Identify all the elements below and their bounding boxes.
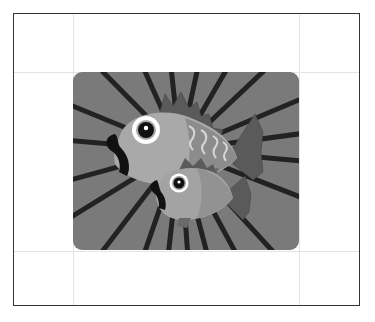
small-fish-eye-highlight	[177, 180, 180, 183]
large-fish-eye-highlight	[144, 126, 148, 130]
canvas: Two cartoon fish on a radial sunburst ba…	[0, 0, 375, 322]
fish-illustration[interactable]: Two cartoon fish on a radial sunburst ba…	[73, 72, 299, 250]
